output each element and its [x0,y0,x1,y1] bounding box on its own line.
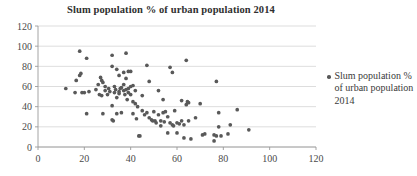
scatter-point [175,131,179,135]
scatter-point [96,83,100,87]
scatter-point [106,93,110,97]
x-axis-tick-label: 20 [79,153,89,164]
scatter-point [187,101,191,105]
legend-marker-icon [327,75,331,79]
scatter-point [133,89,137,93]
scatter-point [157,89,161,93]
scatter-point [79,72,83,76]
scatter-point [182,136,186,140]
scatter-point [184,58,188,62]
x-axis-tick-label: 60 [172,153,182,164]
scatter-point [129,93,133,97]
scatter-point [166,115,170,119]
scatter-point [133,102,137,106]
scatter-point [103,89,107,93]
scatter-point [157,113,161,117]
scatter-point [135,117,139,121]
scatter-point [124,77,128,81]
scatter-point [117,92,121,96]
x-axis-tick-label: 100 [262,153,277,164]
scatter-point [145,111,149,115]
scatter-point [180,119,184,123]
scatter-point [168,65,172,69]
scatter-point [122,83,126,87]
scatter-point [129,70,133,74]
scatter-point [147,80,151,84]
scatter-point [194,116,198,120]
x-axis-tick-label: 120 [309,153,324,164]
scatter-point [198,102,202,106]
y-axis-tick-label: 100 [17,41,32,52]
scatter-point [162,120,166,124]
scatter-point [166,131,170,135]
scatter-point [217,125,221,129]
x-axis-tick-label: 0 [36,153,41,164]
scatter-point [173,109,177,113]
scatter-point [152,110,156,114]
scatter-point [87,90,91,94]
scatter-point [115,68,119,72]
scatter-point [171,71,175,75]
y-axis-tick-label: 120 [17,21,32,32]
scatter-point [182,123,186,127]
scatter-point [136,105,140,109]
scatter-point [82,91,86,95]
scatter-point [85,112,89,116]
scatter-point [140,94,144,98]
scatter-point [215,134,219,138]
scatter-point [125,98,129,102]
y-axis-tick-label: 80 [22,61,32,72]
scatter-point [110,53,114,57]
scatter-point [154,121,158,125]
scatter-point [124,51,128,55]
gridlines [38,26,316,147]
scatter-point [115,96,119,100]
scatter-point [247,128,251,132]
scatter-chart: Slum population % of urban population 20… [0,0,417,176]
scatter-point [219,134,223,138]
scatter-point [78,49,82,53]
scatter-point [189,137,193,141]
scatter-point [226,132,230,136]
scatter-point [73,91,77,95]
scatter-point [94,88,98,92]
data-points [64,49,251,142]
scatter-point [131,84,135,88]
scatter-point [145,63,149,67]
scatter-point [161,98,165,102]
scatter-point [172,124,176,128]
scatter-point [64,87,68,91]
scatter-point [114,88,118,92]
scatter-point [212,139,216,143]
scatter-point [74,79,78,83]
scatter-point [110,64,114,68]
scatter-point [215,80,219,84]
scatter-point [101,81,105,85]
scatter-point [122,71,126,75]
legend-label: Slum population % of urban population 20… [335,70,417,107]
scatter-point [138,134,142,138]
scatter-point [108,90,112,94]
scatter-point [177,122,181,126]
x-axis-tick-label: 80 [218,153,228,164]
scatter-point [100,94,104,98]
scatter-point [103,85,107,89]
axes [35,26,316,150]
scatter-point [111,119,115,123]
scatter-point [101,112,105,116]
scatter-point [131,112,135,116]
axis-tick-labels: 020406080100120020406080100120 [17,21,324,165]
scatter-point [159,124,163,128]
y-axis-tick-label: 20 [22,121,32,132]
scatter-point [203,132,207,136]
scatter-point [164,110,168,114]
scatter-point [115,112,119,116]
scatter-point [180,99,184,103]
scatter-point [123,93,127,97]
scatter-point [140,109,144,113]
scatter-point [159,119,163,123]
y-axis-tick-label: 0 [27,142,32,153]
scatter-point [117,74,121,78]
scatter-point [120,86,124,90]
y-axis-tick-label: 60 [22,81,32,92]
